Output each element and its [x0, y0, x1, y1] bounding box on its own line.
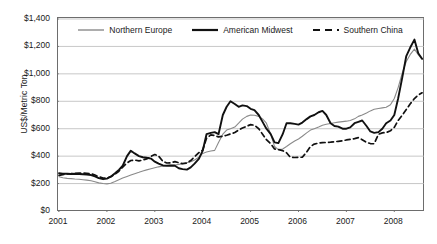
x-tick-label: 2006	[278, 217, 318, 226]
x-tick-label: 2005	[230, 217, 270, 226]
series-line	[59, 49, 422, 184]
x-tick-label: 2004	[182, 217, 222, 226]
x-tick-label: 2007	[325, 217, 365, 226]
series-line	[59, 40, 422, 180]
x-tick-label: 2008	[373, 217, 413, 226]
x-tick-label: 2002	[86, 217, 126, 226]
x-tick-label: 2003	[134, 217, 174, 226]
series-canvas	[58, 18, 425, 212]
x-tick-label: 2001	[38, 217, 78, 226]
chart-figure: US$/Metric Ton $0$200$400$600$800$1,000$…	[0, 0, 437, 244]
plot-area	[57, 17, 424, 211]
